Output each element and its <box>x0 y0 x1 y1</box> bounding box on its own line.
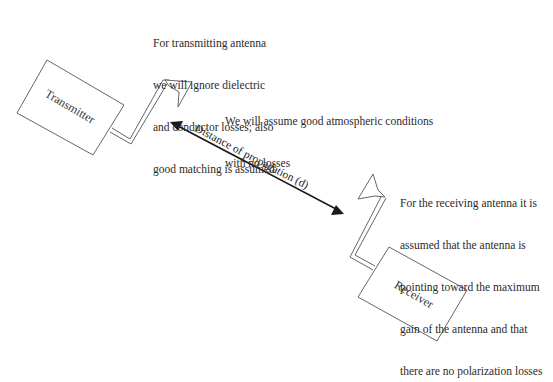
note-line: We will assume good atmospheric conditio… <box>225 114 433 128</box>
receiver-feed-line <box>350 197 386 270</box>
note-line: there are no polarization losses <box>400 364 542 378</box>
note-line: For transmitting antenna <box>153 36 275 50</box>
note-line: gain of the antenna and that <box>400 322 542 336</box>
transmitter: Transmitter <box>17 60 124 155</box>
transmitter-label: Transmitter <box>42 87 97 127</box>
note-line: pointing toward the maximum <box>400 280 542 294</box>
receiving-antenna-note: For the receiving antenna it is assumed … <box>400 168 542 382</box>
note-line: assumed that the antenna is <box>400 238 542 252</box>
note-line: For the receiving antenna it is <box>400 196 542 210</box>
